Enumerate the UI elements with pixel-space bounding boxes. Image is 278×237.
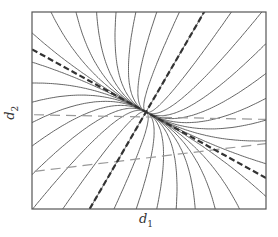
- y-axis-label: d2: [2, 106, 20, 120]
- trajectory-curve: [146, 112, 223, 237]
- trajectory-curve: [146, 0, 229, 112]
- x-axis-label: d1: [139, 211, 153, 229]
- phase-portrait: [0, 0, 278, 237]
- trajectory-curve: [0, 51, 146, 112]
- trajectory-curve: [144, 0, 199, 112]
- trajectory-curve: [146, 0, 278, 114]
- trajectory-curve: [66, 112, 146, 237]
- trajectory-curve: [0, 110, 146, 237]
- trajectory-curve: [0, 105, 146, 180]
- trajectories: [0, 0, 278, 237]
- trajectory-curve: [0, 108, 146, 218]
- plot-frame: [32, 12, 266, 209]
- trajectory-curve: [146, 0, 261, 113]
- trajectory-curve: [0, 101, 146, 146]
